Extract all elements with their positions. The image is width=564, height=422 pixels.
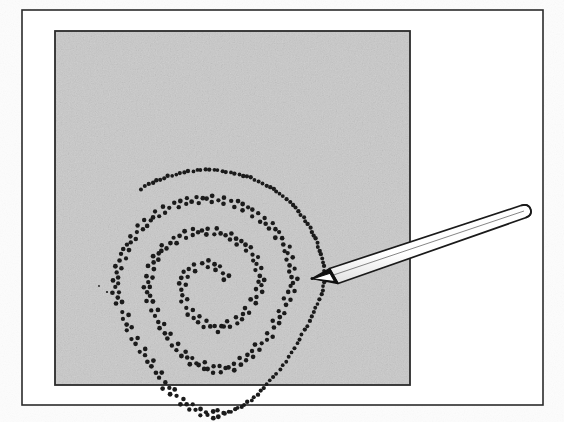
spiral-dot	[156, 251, 161, 256]
spiral-dot	[125, 242, 129, 246]
spiral-dot	[156, 308, 161, 313]
spiral-dot	[222, 195, 227, 200]
spiral-dot	[178, 199, 183, 204]
spiral-dot	[183, 349, 188, 354]
spiral-dot	[321, 261, 325, 265]
spiral-dot	[236, 406, 240, 410]
spiral-dot	[212, 262, 217, 267]
spiral-dot	[250, 207, 255, 212]
spiral-dot	[192, 262, 197, 267]
spiral-dot	[117, 258, 122, 263]
spiral-dot	[291, 281, 296, 286]
spiral-dot	[192, 170, 196, 174]
spiral-dot	[157, 214, 161, 218]
spiral-dot	[259, 266, 264, 271]
spiral-dot	[185, 355, 190, 360]
spiral-dot	[273, 235, 278, 240]
spiral-dot	[207, 167, 211, 171]
spiral-dot	[259, 283, 263, 287]
spiral-dot	[287, 263, 292, 268]
spiral-dot	[240, 208, 245, 213]
spiral-dot	[215, 408, 219, 412]
spiral-dot	[149, 218, 153, 222]
spiral-dot	[254, 295, 259, 300]
spiral-dot	[177, 281, 182, 286]
spiral-dot	[200, 261, 205, 266]
spiral-dot	[246, 205, 250, 209]
spiral-dot	[160, 386, 165, 391]
spiral-dot	[216, 414, 221, 419]
spiral-dot	[265, 331, 269, 335]
spiral-dot	[223, 233, 228, 238]
spiral-dot	[312, 310, 316, 314]
spiral-dot	[288, 245, 292, 249]
spiral-dot	[205, 226, 210, 231]
spiral-dot	[161, 204, 166, 209]
spiral-dot	[234, 315, 239, 320]
spiral-dot	[222, 324, 227, 329]
spiral-dot	[194, 195, 198, 199]
spiral-dot	[196, 168, 200, 172]
spiral-dot	[162, 176, 166, 180]
spiral-dot	[135, 223, 139, 227]
spiral-dot	[182, 229, 187, 234]
spiral-dot	[145, 290, 149, 294]
spiral-dot	[321, 289, 325, 293]
spiral-dot	[298, 213, 302, 217]
spiral-dot	[277, 315, 282, 320]
spiral-dot	[141, 285, 146, 290]
spiral-dot	[187, 267, 192, 272]
spiral-dot	[313, 306, 317, 310]
spiral-dot	[204, 319, 208, 323]
spiral-dot	[162, 331, 167, 336]
spiral-dot	[197, 314, 201, 318]
spiral-dot	[282, 296, 286, 300]
spiral-dot	[310, 314, 314, 318]
spiral-dot	[151, 260, 156, 265]
spiral-dot	[179, 275, 184, 280]
spiral-dot	[185, 275, 189, 279]
spiral-dot	[303, 219, 307, 223]
spiral-dot	[310, 230, 314, 234]
spiral-dot	[316, 241, 320, 245]
spiral-dot	[191, 308, 196, 313]
spiral-dot	[244, 358, 248, 362]
spiral-dot	[111, 278, 116, 283]
spiral-dot	[184, 402, 189, 407]
spiral-dot	[168, 241, 173, 246]
spiral-dot	[167, 206, 171, 210]
spiral-dot	[157, 375, 161, 379]
spiral-dot	[250, 214, 254, 218]
spiral-dot	[156, 320, 161, 325]
spiral-dot	[214, 226, 219, 231]
spiral-dot	[217, 364, 221, 368]
spiral-dot	[200, 196, 205, 201]
spiral-dot	[212, 324, 217, 329]
spiral-dot	[309, 226, 313, 230]
spiral-dot	[168, 331, 173, 336]
spiral-dot	[183, 283, 188, 288]
spiral-dot	[282, 249, 286, 253]
spiral-dot	[258, 219, 263, 224]
spiral-dot	[234, 236, 239, 241]
spiral-dot	[185, 196, 189, 200]
spiral-dot	[222, 411, 226, 415]
spiral-dot	[273, 227, 278, 232]
spiral-dot	[205, 413, 209, 417]
spiral-dot	[211, 371, 215, 375]
spiral-dot	[177, 205, 181, 209]
spiral-dot	[178, 171, 182, 175]
spiral-dot	[271, 221, 275, 225]
spiral-dot	[98, 285, 100, 287]
spiral-dot	[191, 402, 195, 406]
spiral-dot	[213, 168, 217, 172]
spiral-dot	[135, 336, 140, 341]
spiral-dot	[149, 364, 154, 369]
spiral-dot	[176, 341, 181, 346]
spiral-dot	[278, 368, 282, 372]
spiral-dot	[228, 324, 233, 329]
spiral-dot	[148, 293, 153, 298]
spiral-dot	[263, 221, 268, 226]
spiral-dot	[221, 169, 225, 173]
spiral-dot	[179, 354, 184, 359]
